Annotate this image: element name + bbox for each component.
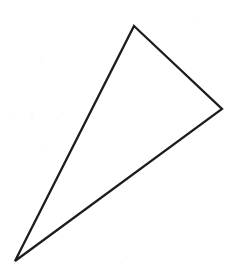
figure-canvas: Triangle outline A single unfilled trian…: [0, 0, 249, 277]
triangle-shape: [15, 26, 222, 261]
triangle-drawing: Triangle outline A single unfilled trian…: [0, 0, 249, 277]
